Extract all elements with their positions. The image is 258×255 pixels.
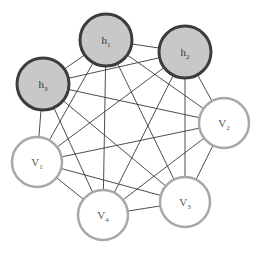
node-label-v3: V3 xyxy=(159,194,211,210)
node-label-v1: V1 xyxy=(11,154,63,170)
node-label-h1: h1 xyxy=(80,32,132,48)
node-label-h2: h2 xyxy=(159,44,211,60)
node-label-h3: h3 xyxy=(17,76,69,92)
node-label-v4: V4 xyxy=(77,207,129,223)
node-label-v2: V2 xyxy=(198,115,250,131)
